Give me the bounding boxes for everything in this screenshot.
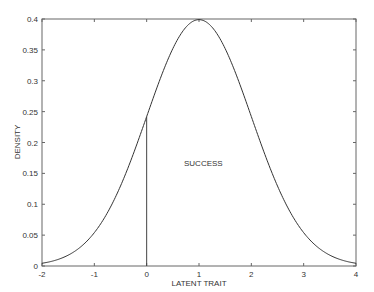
- x-axis-ticks: -2-101234: [38, 19, 358, 279]
- y-tick-label: 0.15: [22, 169, 38, 178]
- x-tick-label: 3: [301, 270, 306, 279]
- y-axis-ticks: 00.050.10.150.20.250.30.350.4: [22, 15, 356, 271]
- x-tick-label: -1: [91, 270, 99, 279]
- y-tick-label: 0.1: [27, 200, 39, 209]
- plot-frame: [42, 19, 356, 266]
- y-axis-label: DENSITY: [13, 124, 22, 159]
- y-tick-label: 0.2: [27, 139, 39, 148]
- y-tick-label: 0.05: [22, 231, 38, 240]
- y-tick-label: 0.35: [22, 46, 38, 55]
- y-tick-label: 0.4: [27, 15, 39, 24]
- x-tick-label: -2: [38, 270, 46, 279]
- y-tick-label: 0.25: [22, 108, 38, 117]
- x-axis-label: LATENT TRAIT: [171, 279, 226, 288]
- success-annotation: SUCCESS: [184, 159, 223, 168]
- x-tick-label: 0: [144, 270, 149, 279]
- density-chart: 00.050.10.150.20.250.30.350.4 -2-101234 …: [0, 0, 374, 292]
- x-tick-label: 2: [249, 270, 254, 279]
- x-tick-label: 1: [197, 270, 202, 279]
- density-curve: [42, 20, 356, 264]
- y-tick-label: 0.3: [27, 77, 39, 86]
- x-tick-label: 4: [354, 270, 359, 279]
